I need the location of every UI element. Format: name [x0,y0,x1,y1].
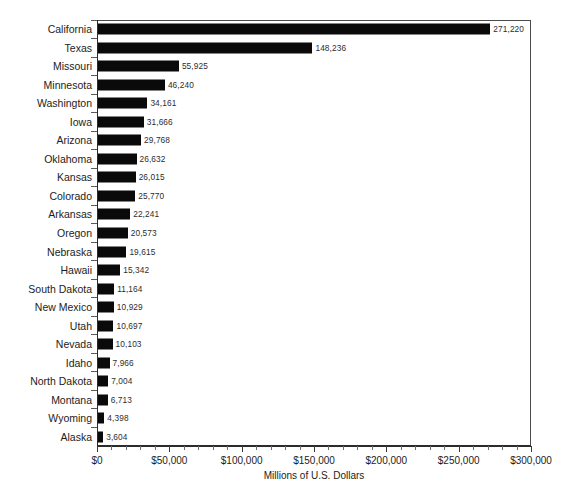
category-label: North Dakota [30,376,92,387]
x-tick-minor [126,446,127,450]
category-label: Kansas [57,172,92,183]
x-tick-minor [517,446,518,450]
category-label: Nebraska [47,246,92,257]
x-tick-minor [256,446,257,450]
x-tick-label: $200,000 [365,455,407,467]
x-tick-minor [401,446,402,450]
bar-value-label: 31,666 [147,117,173,126]
y-axis-tick [91,390,97,391]
bar-value-label: 55,925 [182,62,208,71]
bar-value-label: 10,103 [116,340,142,349]
x-tick-minor [488,446,489,450]
bar-row: South Dakota11,164 [0,279,577,298]
x-tick-minor [198,446,199,450]
category-label: South Dakota [28,283,92,294]
bar-row: Texas148,236 [0,39,577,58]
y-axis-tick [91,38,97,39]
bar-row: North Dakota7,004 [0,372,577,391]
category-label: Iowa [70,116,92,127]
x-tick-minor [328,446,329,450]
x-tick-minor [357,446,358,450]
x-tick-minor [155,446,156,450]
x-tick-minor [473,446,474,450]
category-label: Missouri [53,61,92,72]
bar-value-label: 26,015 [139,173,165,182]
bar-value-label: 7,966 [113,358,134,367]
y-axis-tick [91,260,97,261]
category-label: Montana [51,394,92,405]
x-tick-major [314,446,315,452]
bar-row: Wyoming4,398 [0,409,577,428]
x-tick-major [531,446,532,452]
bar [98,98,147,109]
category-label: Oklahoma [44,153,92,164]
bar [98,376,108,387]
bar-value-label: 22,241 [133,210,159,219]
bar [98,79,165,90]
y-axis-tick [91,57,97,58]
y-axis-tick [91,279,97,280]
y-axis-tick [91,371,97,372]
category-label: Wyoming [48,413,92,424]
bar-row: Arkansas22,241 [0,205,577,224]
y-axis-tick [91,316,97,317]
bar [98,339,113,350]
x-tick-minor [227,446,228,450]
bar-value-label: 15,342 [123,266,149,275]
x-tick-minor [184,446,185,450]
bar-value-label: 271,220 [493,25,524,34]
x-tick-major [386,446,387,452]
bar-row: Idaho7,966 [0,353,577,372]
bar-row: Utah10,697 [0,316,577,335]
category-label: New Mexico [35,302,92,313]
bar-value-label: 6,713 [111,395,132,404]
x-tick-label: $100,000 [221,455,263,467]
bar [98,320,113,331]
x-tick-minor [343,446,344,450]
bar-value-label: 29,768 [144,136,170,145]
bar [98,302,114,313]
bar [98,135,141,146]
bar-value-label: 19,615 [129,247,155,256]
bar-row: Iowa31,666 [0,113,577,132]
x-tick-minor [300,446,301,450]
bar [98,61,179,72]
bar [98,172,136,183]
bar-row: Oklahoma26,632 [0,150,577,169]
bar-value-label: 3,604 [106,432,127,441]
category-label: Texas [65,42,92,53]
x-tick-major [169,446,170,452]
bar [98,227,128,238]
x-tick-label: $0 [91,455,102,467]
bar [98,209,130,220]
category-label: Colorado [49,190,92,201]
y-axis-tick [91,334,97,335]
y-axis-tick [91,223,97,224]
bar-value-label: 20,573 [131,228,157,237]
x-tick-label: $300,000 [510,455,552,467]
x-tick-minor [415,446,416,450]
y-axis-tick [91,168,97,169]
bar-row: Minnesota46,240 [0,76,577,95]
bar-row: Kansas26,015 [0,168,577,187]
x-tick-minor [271,446,272,450]
bar-row: California271,220 [0,20,577,39]
bar-row: Oregon20,573 [0,224,577,243]
x-axis-title: Millions of U.S. Dollars [0,470,577,482]
category-label: Utah [70,320,92,331]
bar-value-label: 46,240 [168,80,194,89]
bar-value-label: 25,770 [138,191,164,200]
category-label: Minnesota [44,79,92,90]
y-axis-tick [91,408,97,409]
bar-value-label: 34,161 [150,99,176,108]
x-tick-minor [140,446,141,450]
y-axis-tick [91,427,97,428]
x-tick-minor [430,446,431,450]
bar [98,283,114,294]
bar [98,431,103,442]
bar-row: Washington34,161 [0,94,577,113]
bar-row: Montana6,713 [0,390,577,409]
y-axis-tick [91,112,97,113]
x-tick-major [97,446,98,452]
bar-row: Missouri55,925 [0,57,577,76]
